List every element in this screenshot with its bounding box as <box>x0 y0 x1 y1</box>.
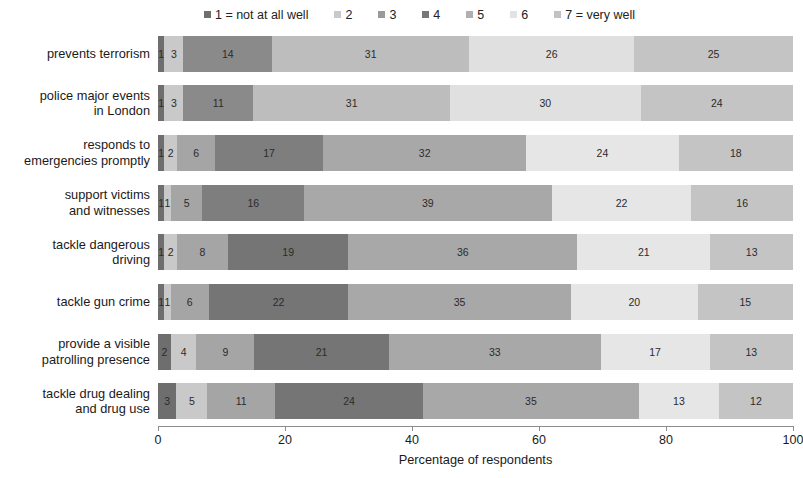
bar-segment[interactable]: 13 <box>710 234 793 270</box>
bar-segment-value: 16 <box>736 197 748 209</box>
x-axis-title: Percentage of respondents <box>158 452 793 467</box>
bar-segment-value: 19 <box>282 246 294 258</box>
bar-segment[interactable]: 36 <box>348 234 577 270</box>
stacked-bar: 351124351312 <box>158 383 793 419</box>
category-label: provide a visiblepatrolling presence <box>6 334 158 370</box>
category-label-line: and witnesses <box>65 203 150 219</box>
bar-segment-value: 5 <box>184 197 190 209</box>
bar-row: tackle dangerousdriving12819362113 <box>158 234 793 270</box>
x-axis-tick <box>285 426 286 431</box>
bar-segment[interactable]: 32 <box>323 135 526 171</box>
bar-segment-value: 21 <box>316 346 328 358</box>
x-axis-tick-label: 0 <box>155 433 162 447</box>
legend-item-5[interactable]: 5 <box>466 8 484 22</box>
legend-label: 4 <box>433 8 440 22</box>
bar-segment[interactable]: 3 <box>164 85 183 121</box>
bar-segment[interactable]: 2 <box>164 135 177 171</box>
bar-segment-value: 18 <box>730 147 742 159</box>
bar-segment[interactable]: 2 <box>164 234 177 270</box>
bar-segment[interactable]: 3 <box>158 383 176 419</box>
bar-segment[interactable]: 20 <box>571 284 698 320</box>
bar-segment[interactable]: 18 <box>679 135 793 171</box>
bar-segment[interactable]: 35 <box>348 284 570 320</box>
category-label-line: and drug use <box>43 401 150 417</box>
bar-segment[interactable]: 26 <box>469 36 634 72</box>
bar-segment[interactable]: 6 <box>177 135 215 171</box>
bar-segment[interactable]: 31 <box>272 36 469 72</box>
x-axis-tick-label: 40 <box>405 433 419 447</box>
bar-segment-value: 22 <box>616 197 628 209</box>
bar-segment[interactable]: 3 <box>164 36 183 72</box>
legend-item-7[interactable]: 7 = very well <box>554 8 635 22</box>
bar-segment[interactable]: 24 <box>275 383 423 419</box>
bar-segment[interactable]: 33 <box>389 334 601 370</box>
bar-segment-value: 13 <box>673 395 685 407</box>
bar-segment-value: 22 <box>273 296 285 308</box>
bar-segment[interactable]: 30 <box>450 85 641 121</box>
bar-segment-value: 14 <box>222 48 234 60</box>
bar-segment-value: 11 <box>213 97 224 109</box>
bar-segment-value: 25 <box>708 48 720 60</box>
bar-segment-value: 31 <box>346 97 358 109</box>
bar-segment-value: 5 <box>189 395 195 407</box>
bar-rows: prevents terrorism1314312625police major… <box>158 29 793 426</box>
bar-segment[interactable]: 13 <box>710 334 793 370</box>
x-axis-tick <box>793 426 794 431</box>
bar-segment[interactable]: 21 <box>577 234 710 270</box>
legend-item-6[interactable]: 6 <box>510 8 528 22</box>
legend-swatch-icon <box>204 11 211 18</box>
bar-segment[interactable]: 11 <box>183 85 253 121</box>
legend-item-4[interactable]: 4 <box>422 8 440 22</box>
bar-segment[interactable]: 31 <box>253 85 450 121</box>
legend-swatch-icon <box>378 11 385 18</box>
category-label-line: prevents terrorism <box>47 46 150 62</box>
bar-segment[interactable]: 22 <box>552 185 692 221</box>
legend-swatch-icon <box>466 11 473 18</box>
bar-segment[interactable]: 6 <box>171 284 209 320</box>
category-label-line: provide a visible <box>42 336 150 352</box>
bar-segment[interactable]: 39 <box>304 185 552 221</box>
chart-legend: 1 = not at all well234567 = very well <box>0 0 799 29</box>
bar-segment-value: 2 <box>168 147 174 159</box>
bar-segment[interactable]: 35 <box>423 383 639 419</box>
x-axis-tick <box>539 426 540 431</box>
bar-segment[interactable]: 22 <box>209 284 349 320</box>
bar-segment[interactable]: 14 <box>183 36 272 72</box>
bar-segment[interactable]: 4 <box>171 334 197 370</box>
bar-row: tackle drug dealingand drug use351124351… <box>158 383 793 419</box>
bar-segment[interactable]: 21 <box>254 334 389 370</box>
bar-segment[interactable]: 16 <box>691 185 793 221</box>
bar-segment-value: 6 <box>187 296 193 308</box>
bar-segment[interactable]: 12 <box>719 383 793 419</box>
bar-segment[interactable]: 13 <box>639 383 719 419</box>
bar-segment[interactable]: 5 <box>171 185 203 221</box>
category-label-line: emergencies promptly <box>24 153 150 169</box>
bar-segment[interactable]: 11 <box>207 383 275 419</box>
bar-segment-value: 33 <box>489 346 501 358</box>
bar-segment[interactable]: 17 <box>215 135 323 171</box>
stacked-bar: 24921331713 <box>158 334 793 370</box>
legend-item-1[interactable]: 1 = not at all well <box>204 8 308 22</box>
bar-segment[interactable]: 5 <box>176 383 207 419</box>
bar-segment[interactable]: 17 <box>601 334 710 370</box>
bar-segment[interactable]: 8 <box>177 234 228 270</box>
legend-item-3[interactable]: 3 <box>378 8 396 22</box>
category-label: police major eventsin London <box>6 85 158 121</box>
bar-segment[interactable]: 24 <box>526 135 678 171</box>
bar-segment[interactable]: 24 <box>641 85 793 121</box>
bar-segment[interactable]: 2 <box>158 334 171 370</box>
legend-label: 3 <box>389 8 396 22</box>
stacked-bar: 12819362113 <box>158 234 793 270</box>
bar-segment[interactable]: 25 <box>634 36 793 72</box>
bar-segment[interactable]: 19 <box>228 234 349 270</box>
x-axis-line <box>158 426 793 427</box>
bar-segment[interactable]: 15 <box>698 284 793 320</box>
bar-segment[interactable]: 16 <box>202 185 304 221</box>
bar-segment-value: 24 <box>711 97 723 109</box>
category-label: tackle drug dealingand drug use <box>6 383 158 419</box>
legend-label: 1 = not at all well <box>215 8 308 22</box>
legend-item-2[interactable]: 2 <box>334 8 352 22</box>
bar-segment-value: 1 <box>158 296 164 308</box>
bar-segment[interactable]: 9 <box>196 334 254 370</box>
